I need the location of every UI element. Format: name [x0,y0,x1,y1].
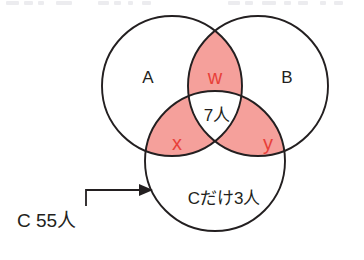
label-set-b: B [281,68,292,87]
label-region-x: x [172,132,182,154]
label-region-c-only: Cだけ3人 [188,189,261,208]
venn-figure: A B w x y 7人 Cだけ3人 C 55人 [0,0,364,260]
label-region-intersection-all: 7人 [204,106,230,125]
label-region-w: w [207,66,223,88]
callout-label-c-total: C 55人 [17,210,76,231]
venn-diagram-canvas: A B w x y 7人 Cだけ3人 C 55人 [0,0,364,260]
label-region-y: y [263,132,273,154]
callout-leader-line [86,190,141,206]
label-set-a: A [142,68,154,87]
